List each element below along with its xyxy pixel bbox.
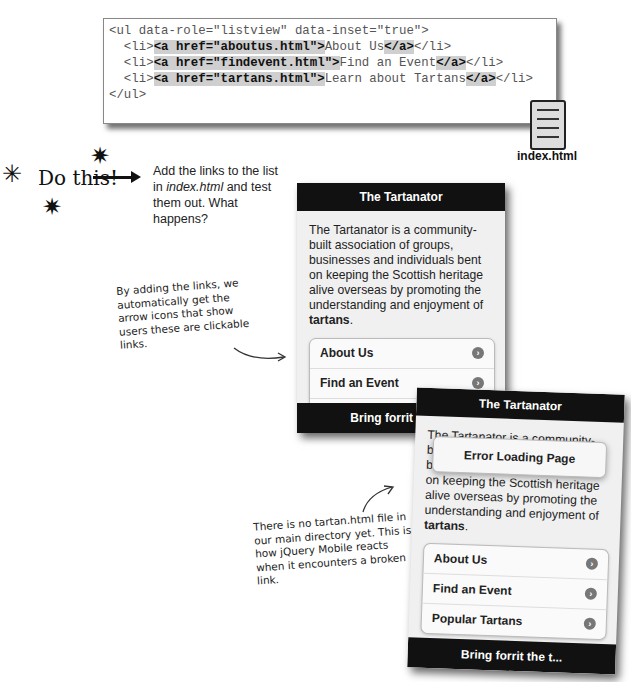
code-line: <ul data-role="listview" data-inset="tru… (109, 24, 429, 38)
annotation-broken-link: There is no tartan.html file in our main… (253, 510, 417, 588)
arrow-up-right-icon (360, 484, 396, 514)
star-icon: ✷ (90, 144, 110, 168)
header-bar: The Tartanator (297, 183, 505, 211)
file-label: index.html (517, 149, 577, 163)
error-loading-dialog: Error Loading Page (432, 436, 607, 478)
code-line: <li><a href="aboutus.html">About Us</a><… (109, 40, 451, 54)
chevron-right-icon: › (585, 587, 597, 599)
code-line: <li><a href="findevent.html">Find an Eve… (109, 56, 503, 70)
code-listing: <ul data-role="listview" data-inset="tru… (103, 18, 557, 124)
curved-arrow-icon (232, 344, 292, 364)
phone-screen-error: The Tartanator The Tartanator is a commu… (407, 387, 625, 674)
chevron-right-icon: › (586, 557, 598, 569)
file-icon (530, 100, 566, 150)
listview: About Us› Find an Event› Popular Tartans… (420, 543, 609, 640)
list-item-popular-tartans[interactable]: Popular Tartans› (421, 603, 606, 639)
chevron-right-icon: › (472, 377, 484, 389)
annotation-links: By adding the links, we automatically ge… (116, 275, 260, 352)
footer-bar: Bring forrit the t... (407, 637, 616, 674)
star-icon: ✳ (2, 162, 22, 186)
code-line: </ul> (109, 88, 146, 102)
star-icon: ✷ (42, 195, 62, 219)
chevron-right-icon: › (584, 617, 596, 629)
arrow-right-icon (93, 176, 133, 179)
exercise-instruction: Add the links to the list in index.html … (153, 163, 288, 227)
list-item-about-us[interactable]: About Us› (310, 339, 494, 368)
chevron-right-icon: › (472, 347, 484, 359)
code-line: <li><a href="tartans.html">Learn about T… (109, 72, 533, 86)
